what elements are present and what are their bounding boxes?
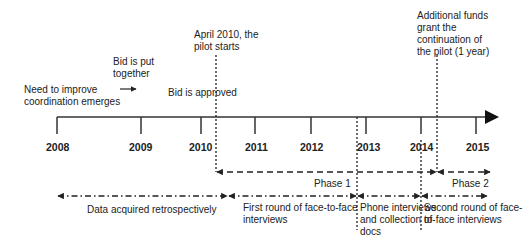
event-pilot-start-label: April 2010, thepilot starts bbox=[194, 29, 259, 53]
retro-data-label: Data acquired retrospectively bbox=[87, 204, 217, 216]
timeline-axis bbox=[57, 110, 499, 134]
phase-2-label: Phase 2 bbox=[452, 178, 489, 190]
year-label: 2011 bbox=[245, 141, 268, 153]
year-label: 2012 bbox=[300, 141, 323, 153]
year-label: 2010 bbox=[189, 141, 212, 153]
event-need-label: Need to improvecoordination emerges bbox=[24, 84, 120, 108]
year-label: 2013 bbox=[357, 141, 380, 153]
axis-arrow-icon bbox=[485, 110, 499, 124]
phase-1-label: Phase 1 bbox=[314, 178, 351, 190]
event-funds-label: Additional fundsgrant the continuation o… bbox=[417, 10, 489, 58]
event-bid-approved-label: Bid is approved bbox=[168, 87, 237, 99]
event-bid-put-label: Bid is puttogether bbox=[113, 56, 154, 80]
year-label: 2008 bbox=[46, 141, 69, 153]
year-label: 2015 bbox=[466, 141, 489, 153]
first-round-label: First round of face-to-faceinterviews bbox=[243, 202, 358, 226]
year-label: 2009 bbox=[129, 141, 152, 153]
second-round-label: Second round of face-to-face interviews bbox=[424, 202, 522, 226]
year-label: 2014 bbox=[410, 141, 433, 153]
